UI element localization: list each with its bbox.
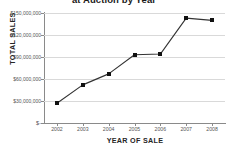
x-axis-tick-label: 2008	[199, 126, 225, 133]
y-axis-tick-label: $120,000,000	[5, 32, 41, 38]
x-axis-title: YEAR OF SALE	[44, 136, 226, 145]
y-axis-tick-label: $60,000,000	[5, 76, 41, 82]
x-axis-tick-label: 2004	[96, 126, 122, 133]
y-axis-tick-label: $-	[5, 120, 41, 126]
y-axis-tick-mark	[41, 123, 44, 124]
y-axis-tick-label: $150,000,000	[5, 10, 41, 16]
y-axis-tick-label: $30,000,000	[5, 98, 41, 104]
x-axis-tick-label: 2003	[70, 126, 96, 133]
data-point	[55, 101, 59, 105]
data-point	[158, 52, 162, 56]
plot-area	[44, 13, 225, 123]
data-point	[210, 18, 214, 22]
data-point	[81, 83, 85, 87]
data-point	[107, 72, 111, 76]
data-point	[184, 16, 188, 20]
x-axis-tick-label: 2007	[173, 126, 199, 133]
y-axis-tick-label: $90,000,000	[5, 54, 41, 60]
data-series-line	[44, 13, 225, 123]
x-axis-tick-label: 2006	[147, 126, 173, 133]
chart-figure: at Auction by Year TOTAL SALES $-$30,000…	[0, 0, 228, 150]
data-point	[133, 53, 137, 57]
x-axis-tick-label: 2002	[44, 126, 70, 133]
chart-title: at Auction by Year	[0, 0, 228, 6]
x-axis-tick-label: 2005	[122, 126, 148, 133]
